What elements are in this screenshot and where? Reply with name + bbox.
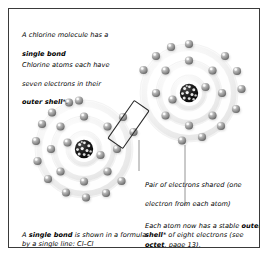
caption-shared-pair: Pair of electrons shared (one electron f… — [145, 172, 260, 209]
caption-seven-electrons: Chlorine atoms each have seven electrons… — [22, 52, 147, 107]
caption-bond-pre: A — [22, 231, 29, 239]
figure-page: A chlorine molecule has a single bond Ch… — [0, 0, 269, 260]
caption-intro-line1: A chlorine molecule has a — [22, 31, 108, 39]
caption-octet-post: , page 13). — [164, 241, 200, 248]
caption-octet-bold-octet: octet — [145, 241, 164, 248]
caption-bond-bold: single bond — [29, 231, 73, 239]
caption-octet-pre: Each atom now has a stable — [145, 222, 241, 230]
caption-octet: Each atom now has a stable outer shell* … — [145, 213, 260, 248]
caption-octet-mid: * of eight electrons (see — [163, 231, 244, 239]
caption-seven-suffix: *. — [63, 98, 69, 106]
left-atom-nucleus — [75, 140, 93, 158]
right-atom-nucleus — [180, 84, 198, 102]
caption-seven-line2: seven electrons in their — [22, 80, 101, 88]
caption-seven-line1: Chlorine atoms each have — [22, 61, 110, 69]
caption-pair-line2: electron from each atom) — [145, 200, 231, 208]
figure-frame: A chlorine molecule has a single bond Ch… — [8, 8, 260, 248]
caption-seven-bold: outer shell — [22, 98, 63, 106]
caption-pair-line1: Pair of electrons shared (one — [145, 181, 242, 189]
caption-single-bond: A single bond is shown in a formula by a… — [22, 222, 150, 248]
